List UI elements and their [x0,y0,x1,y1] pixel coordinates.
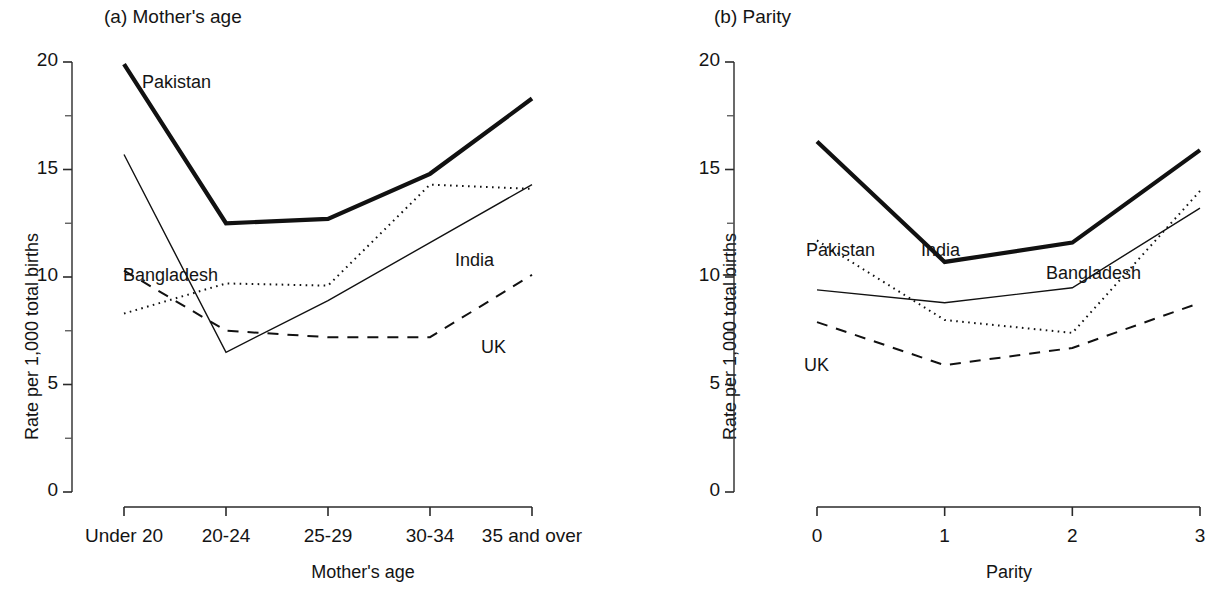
panel-a-plot [0,0,616,604]
series-line-uk [817,303,1200,365]
series-label-bangladesh: Bangladesh [1046,263,1141,284]
y-tick-label: 0 [676,479,720,501]
figure-container: (a) Mother's age Rate per 1,000 total bi… [0,0,1232,604]
series-label-uk: UK [481,337,506,358]
y-tick-label: 5 [14,372,58,394]
series-label-india: India [455,250,494,271]
x-tick-label: 35 and over [447,525,617,547]
y-tick-label: 5 [676,372,720,394]
series-line-bangladesh [817,191,1200,333]
series-label-pakistan: Pakistan [806,240,875,261]
y-tick-label: 20 [676,49,720,71]
chart-panel-b: (b) Parity Rate per 1,000 total births P… [616,0,1232,604]
x-tick-label: 3 [1115,525,1232,547]
y-tick-label: 15 [676,157,720,179]
y-tick-label: 10 [676,264,720,286]
y-tick-label: 20 [14,49,58,71]
series-label-pakistan: Pakistan [142,72,211,93]
y-tick-label: 0 [14,479,58,501]
y-tick-label: 15 [14,157,58,179]
series-label-uk: UK [804,355,829,376]
y-tick-label: 10 [14,264,58,286]
series-label-bangladesh: Bangladesh [123,265,218,286]
panel-b-plot [616,0,1232,604]
series-label-india: India [921,240,960,261]
chart-panel-a: (a) Mother's age Rate per 1,000 total bi… [0,0,616,604]
